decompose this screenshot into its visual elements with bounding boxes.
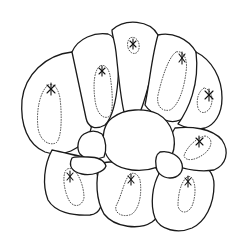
cell-small-lower-left — [70, 157, 106, 175]
cell-small-left — [78, 131, 106, 159]
cell-cluster-drawing — [0, 0, 242, 252]
